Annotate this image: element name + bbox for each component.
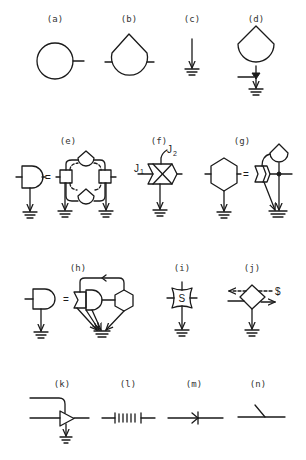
- panel-f: (f) J 1 J 2: [134, 136, 182, 216]
- storage-tank-icon-bottom: [78, 189, 94, 204]
- workgate-icon: [74, 292, 86, 308]
- equals-sign: =: [63, 294, 69, 305]
- heat-sink-icon: [60, 437, 72, 443]
- open-switch-icon: [238, 405, 285, 417]
- panel-label-a: (a): [47, 14, 63, 24]
- heat-sink-icon: [245, 330, 259, 336]
- consumer-unit-icon-inner: [86, 290, 102, 310]
- consumer-unit-icon: [22, 166, 43, 188]
- panel-i: (i) S: [167, 263, 197, 336]
- panel-l: (l): [102, 379, 155, 423]
- panel-k: (k): [30, 379, 89, 443]
- heat-sink-icon: [34, 332, 48, 338]
- heat-sink-icon: [23, 212, 37, 218]
- battery-cells-icon: [102, 413, 155, 423]
- consumer-unit-icon: [33, 289, 55, 309]
- panel-a: (a): [37, 14, 84, 79]
- panel-b: (b): [105, 14, 154, 75]
- storage-tank-icon: [238, 26, 274, 62]
- panel-label-n: (n): [250, 379, 266, 389]
- equals-sign: =: [45, 172, 51, 183]
- j2-subscript: 2: [173, 150, 177, 157]
- panel-h: (h) =: [25, 263, 133, 338]
- panel-label-c: (c): [184, 14, 200, 24]
- storage-tank-icon-top: [78, 151, 94, 166]
- panel-n: (n): [238, 379, 285, 417]
- transaction-diamond-icon: [240, 285, 265, 309]
- heat-sink-icon: [58, 211, 72, 217]
- source-circle-icon: [37, 43, 73, 79]
- panel-label-j: (j): [244, 263, 260, 273]
- interaction-box-right: [99, 170, 111, 183]
- heat-sink-icon: [153, 210, 167, 216]
- panel-label-g: (g): [234, 136, 250, 146]
- panel-label-f: (f): [151, 136, 167, 146]
- interaction-box-left: [60, 170, 72, 183]
- panel-j: (j) $: [228, 263, 281, 336]
- panel-c: (c): [184, 14, 200, 75]
- self-maintaining-hexagon-icon: [211, 158, 237, 191]
- panel-label-l: (l): [120, 379, 136, 389]
- storage-tank-icon: [111, 34, 147, 75]
- amplifier-triangle-icon: [60, 411, 74, 426]
- drain-valve-icon: [252, 73, 260, 79]
- heat-sink-icon: [217, 212, 231, 218]
- panel-label-b: (b): [121, 14, 137, 24]
- switch-letter: S: [179, 293, 186, 304]
- heat-sink-icon: [185, 69, 199, 75]
- panel-m: (m): [168, 379, 223, 424]
- panel-label-i: (i): [174, 263, 190, 273]
- heat-sink-icon: [94, 331, 110, 337]
- diode-icon: [168, 412, 223, 424]
- panel-e: (e) =: [16, 136, 116, 218]
- heat-sink-icon: [99, 211, 113, 217]
- equals-sign: =: [243, 169, 249, 180]
- panel-g: (g) =: [205, 136, 292, 218]
- hexagon-icon: [115, 290, 133, 311]
- storage-tank-icon: [270, 144, 288, 162]
- heat-sink-icon: [249, 89, 263, 95]
- panel-label-h: (h): [70, 263, 86, 273]
- panel-label-k: (k): [54, 379, 70, 389]
- panel-d: (d): [238, 14, 274, 95]
- panel-label-e: (e): [60, 136, 76, 146]
- j2-label: J: [167, 144, 172, 155]
- workgate-icon: [255, 166, 270, 182]
- j1-subscript: 1: [140, 168, 144, 175]
- panel-label-m: (m): [186, 379, 202, 389]
- j1-label: J: [134, 163, 139, 174]
- energy-symbols-diagram: (a) (b) (c) (d) (e): [0, 0, 306, 460]
- dollar-sign: $: [275, 286, 281, 297]
- heat-sink-icon: [269, 211, 287, 217]
- panel-label-d: (d): [248, 14, 264, 24]
- heat-sink-icon: [175, 330, 189, 336]
